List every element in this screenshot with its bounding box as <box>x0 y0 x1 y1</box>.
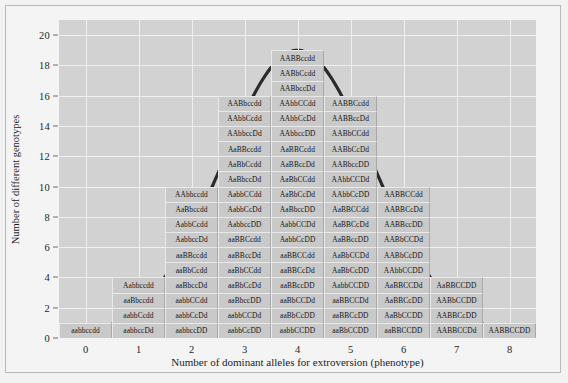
genotype-column: AABBCCDD <box>483 20 535 338</box>
genotype-cell: aaBbccDD <box>218 293 270 309</box>
genotype-cell: aaBbCcDD <box>271 308 323 324</box>
y-tick-label: 4 <box>45 272 50 283</box>
genotype-cell: AaBbccDD <box>271 202 323 218</box>
x-tick-label: 2 <box>189 344 194 355</box>
y-tick-label: 16 <box>39 90 50 101</box>
y-tick-label: 12 <box>39 151 50 162</box>
genotype-cell: AABbccDd <box>271 81 323 97</box>
y-tick-mark <box>53 338 58 339</box>
genotype-cell: AabbCCdd <box>218 187 270 203</box>
y-tick-mark <box>53 156 58 157</box>
genotype-cell: AABBCcDd <box>377 202 429 218</box>
y-tick-label: 8 <box>45 211 50 222</box>
x-tick-label: 7 <box>454 344 459 355</box>
genotype-cell: AAbbCcdd <box>218 111 270 127</box>
genotype-cell: aaBbCcdd <box>165 262 217 278</box>
genotype-cell: AABbccDD <box>324 156 376 172</box>
genotype-cell: AABbCcdd <box>271 65 323 81</box>
genotype-cell: AaBbccDd <box>218 171 270 187</box>
genotype-cell: AaBBCCdd <box>324 202 376 218</box>
y-tick-mark <box>53 126 58 127</box>
y-tick-label: 6 <box>45 242 50 253</box>
genotype-cell: AABbCcDd <box>324 141 376 157</box>
genotype-cell: aaBBccDd <box>218 247 270 263</box>
x-tick-label: 0 <box>83 344 88 355</box>
plot-area: aabbccddAabbccddaaBbccddaabbCcddaabbccDd… <box>59 20 536 338</box>
genotype-column: aabbccdd <box>59 20 111 338</box>
genotype-cell: AabbCcdd <box>165 217 217 233</box>
genotype-cell: AaBbCcDD <box>324 262 376 278</box>
genotype-cell: AabbccDD <box>218 217 270 233</box>
genotype-cell: aaBBccdd <box>165 247 217 263</box>
y-tick-label: 18 <box>39 60 50 71</box>
genotype-cell: aaBbCcDd <box>218 277 270 293</box>
genotype-cell: aaBbccDd <box>165 277 217 293</box>
x-tick-label: 1 <box>136 344 141 355</box>
genotype-column: AABBCcddAABBccDdAABbCCddAABbCcDdAABbccDD… <box>324 20 376 338</box>
genotype-column: AABBCCddAABBCcDdAABBccDDAABbCCDdAABbCcDD… <box>377 20 429 338</box>
genotype-cell: aaBBCcdd <box>218 232 270 248</box>
genotype-cell: AaBBCCDd <box>377 277 429 293</box>
x-tick-label: 5 <box>348 344 353 355</box>
genotype-cell: AaBbCCdd <box>271 171 323 187</box>
genotype-cell: AaBBCcDd <box>324 217 376 233</box>
genotype-cell: AABbCCdd <box>324 126 376 142</box>
genotype-cell: AaBBCcdd <box>271 141 323 157</box>
genotype-cell: aaBBCCDD <box>377 323 429 338</box>
genotype-cell: AaBbccdd <box>165 202 217 218</box>
genotype-cell: Aabbccdd <box>112 277 164 293</box>
genotype-cell: AABBCCDd <box>430 323 482 338</box>
x-axis-title: Number of dominant alleles for extrovers… <box>59 356 536 368</box>
genotype-column: AabbccddaaBbccddaabbCcddaabbccDd <box>112 20 164 338</box>
y-tick-mark <box>53 277 58 278</box>
y-tick-label: 20 <box>39 30 50 41</box>
genotype-cell: aaBbccdd <box>112 293 164 309</box>
genotype-cell: aabbCcdd <box>112 308 164 324</box>
genotype-cell: AABBccdd <box>271 50 323 66</box>
genotype-cell: AabbCCDd <box>271 217 323 233</box>
x-tick-label: 4 <box>295 344 300 355</box>
genotype-cell: AaBbCcDd <box>271 187 323 203</box>
genotype-cell: AaBBccdd <box>218 141 270 157</box>
genotype-cell: AAbbCcDd <box>271 111 323 127</box>
genotype-cell: AABBCCdd <box>377 187 429 203</box>
genotype-cell: aaBBCCDd <box>324 293 376 309</box>
genotype-cell: AAbbccdd <box>165 187 217 203</box>
genotype-cell: AABbCCDd <box>377 232 429 248</box>
genotype-cell: aabbCCdd <box>165 293 217 309</box>
y-tick-mark <box>53 95 58 96</box>
genotype-column: AABBccddAABbCcddAABbccDdAAbbCCddAAbbCcDd… <box>271 20 323 338</box>
x-tick-label: 6 <box>401 344 406 355</box>
y-tick-mark <box>53 65 58 66</box>
genotype-cell: AABBCcdd <box>324 96 376 112</box>
genotype-cell: aaBbCCDd <box>271 293 323 309</box>
y-tick-mark <box>53 35 58 36</box>
genotype-cell: aaBBCCdd <box>271 247 323 263</box>
genotype-cell: AAbbCCDd <box>324 171 376 187</box>
genotype-cell: aabbCCDd <box>218 308 270 324</box>
genotype-cell: AAbbccDD <box>271 126 323 142</box>
genotype-cell: AabbCCDD <box>324 277 376 293</box>
genotype-cell: AAbbCCdd <box>271 96 323 112</box>
genotype-cell: AaBbCCDD <box>377 308 429 324</box>
genotype-cell: AABBccDD <box>377 217 429 233</box>
genotype-cell: aabbCcDd <box>165 308 217 324</box>
x-axis-ticks: 012345678 <box>59 338 536 358</box>
genotype-cell: AaBbCcdd <box>218 156 270 172</box>
y-tick-mark <box>53 186 58 187</box>
genotype-cell: AabbCcDd <box>218 202 270 218</box>
x-tick-label: 8 <box>507 344 512 355</box>
y-axis-ticks: 02468101214161820 <box>0 20 59 338</box>
genotype-cell: AAbbCcDD <box>324 187 376 203</box>
genotype-cell: AAbbCCDD <box>377 262 429 278</box>
genotype-cell: aaBBccDD <box>271 277 323 293</box>
figure-root: Number of different genotypes 0246810121… <box>0 0 568 383</box>
genotype-cell: AaBBccDD <box>324 232 376 248</box>
genotype-cell: aaBbCCdd <box>218 262 270 278</box>
genotype-cell: aabbCCDD <box>271 323 323 338</box>
y-tick-label: 14 <box>39 121 50 132</box>
genotype-cell: AABBCcDD <box>430 308 482 324</box>
genotype-cell: AabbccDd <box>165 232 217 248</box>
genotype-cell: aaBbCCDD <box>324 323 376 338</box>
x-tick-label: 3 <box>242 344 247 355</box>
